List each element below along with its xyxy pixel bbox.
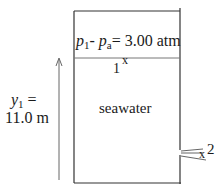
fluid-label: seawater [99,101,151,116]
equals-sign: = [24,91,37,108]
point2-marker: x [199,148,205,160]
p1-symbol: p [76,32,84,49]
point1-marker: x [122,54,128,66]
pressure-value: = 3.00 atm [112,32,181,49]
point2-label: 2 [207,142,215,157]
height-value: 11.0 m [5,110,49,126]
point1-label: 1 [113,62,120,76]
height-label-line1: y1 = [11,92,37,110]
pa-symbol: p [99,32,107,49]
pressure-label: p1- pa= 3.00 atm [76,33,181,51]
minus-sign: - [90,32,99,49]
